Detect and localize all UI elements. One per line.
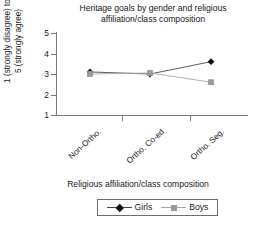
chart-legend: Girls Boys <box>97 199 218 216</box>
data-point-boys <box>147 70 153 76</box>
x-axis-title: Religious affiliation/class composition <box>20 179 256 189</box>
legend-line-boys <box>161 203 186 212</box>
square-marker-icon <box>171 205 177 211</box>
data-point-girls <box>208 58 215 65</box>
series-plot <box>0 0 262 226</box>
data-point-boys <box>208 79 214 85</box>
legend-label-girls: Girls <box>135 203 153 212</box>
legend-line-girls <box>107 203 132 212</box>
data-point-boys <box>87 71 93 77</box>
legend-item-girls: Girls <box>107 203 153 212</box>
chart-figure: Heritage goals by gender and religious a… <box>0 0 262 226</box>
legend-item-boys: Boys <box>161 203 208 212</box>
legend-label-boys: Boys <box>189 203 208 212</box>
diamond-marker-icon <box>115 204 123 212</box>
